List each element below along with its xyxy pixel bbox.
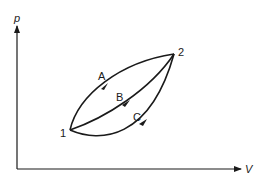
- path-a-label: A: [98, 70, 106, 82]
- pv-diagram: p V 1 2 A B C: [0, 0, 261, 182]
- state-1-label: 1: [60, 127, 66, 139]
- x-axis-label: V: [245, 163, 254, 175]
- path-c-label: C: [133, 111, 141, 123]
- state-2-label: 2: [178, 46, 184, 58]
- path-b-label: B: [116, 91, 123, 103]
- y-axis-label: p: [13, 12, 20, 24]
